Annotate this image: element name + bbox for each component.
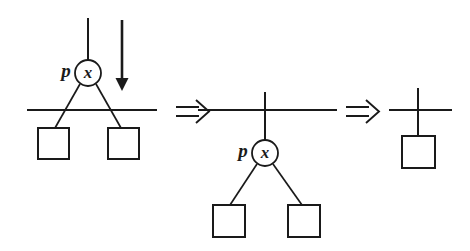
panel-after-split: x p xyxy=(198,92,337,237)
middle-edge-to-child-2 xyxy=(273,164,302,205)
middle-edge-to-child-1 xyxy=(230,164,257,205)
middle-child-box-2 xyxy=(288,205,320,237)
implies-arrow-2 xyxy=(346,100,379,123)
down-arrow-head xyxy=(116,78,129,91)
left-child-box-1 xyxy=(38,128,69,159)
middle-node-label: x xyxy=(260,143,270,162)
implies-arrow-1-glyph xyxy=(176,100,209,123)
diagram-svg: x p x p xyxy=(0,0,470,251)
panel-before-split: x p xyxy=(27,18,157,159)
left-parent-label: p xyxy=(59,60,71,81)
middle-child-box-1 xyxy=(213,205,245,237)
panel-collapsed xyxy=(389,88,452,168)
left-edge-to-child-2 xyxy=(96,84,121,128)
implies-arrow-1 xyxy=(176,100,209,123)
implies-arrow-2-glyph xyxy=(346,100,379,123)
left-edge-to-child-1 xyxy=(55,84,80,128)
left-node-label: x xyxy=(83,63,93,82)
right-child-box-1 xyxy=(402,136,435,168)
figure-canvas: x p x p xyxy=(0,0,470,251)
middle-parent-label: p xyxy=(236,140,248,161)
left-child-box-2 xyxy=(108,128,139,159)
